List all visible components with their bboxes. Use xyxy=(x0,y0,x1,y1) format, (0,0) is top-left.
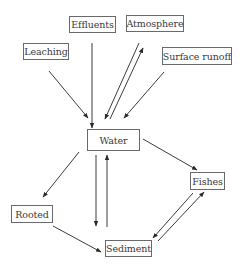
arrow-water-to-rooted xyxy=(43,152,79,197)
node-label: Water xyxy=(99,135,127,146)
node-label: Leaching xyxy=(24,46,67,57)
arrow-leaching-to-water xyxy=(49,71,88,118)
node-label: Effluents xyxy=(71,19,114,30)
arrow-water-to-fishes xyxy=(143,139,197,170)
node-surface-runoff: Surface runoff xyxy=(162,47,232,65)
node-sediment: Sediment xyxy=(105,240,152,257)
arrow-surface-runoff-to-water xyxy=(124,72,164,118)
arrow-sediment-to-fishes xyxy=(158,192,204,241)
arrow-atmosphere-to-water xyxy=(105,43,139,119)
node-label: Fishes xyxy=(192,176,223,187)
node-water: Water xyxy=(87,129,140,151)
arrow-fishes-to-sediment xyxy=(153,193,193,238)
diagram-canvas: Leaching Effluents Atmosphere Surface ru… xyxy=(0,0,245,269)
node-label: Atmosphere xyxy=(126,18,183,29)
arrow-water-to-atmosphere xyxy=(110,48,143,119)
arrow-rooted-to-sediment xyxy=(53,226,101,252)
node-rooted: Rooted xyxy=(11,205,53,223)
node-fishes: Fishes xyxy=(190,172,225,190)
node-effluents: Effluents xyxy=(69,16,116,33)
node-label: Sediment xyxy=(106,243,151,254)
node-leaching: Leaching xyxy=(23,43,69,60)
node-atmosphere: Atmosphere xyxy=(126,15,184,32)
node-label: Rooted xyxy=(15,209,49,220)
node-label: Surface runoff xyxy=(163,51,231,62)
